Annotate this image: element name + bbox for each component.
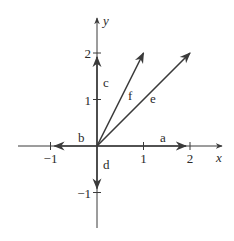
y-tick-label: −1 bbox=[77, 186, 91, 201]
y-tick-label: 1 bbox=[85, 93, 92, 108]
vector-label-a: a bbox=[160, 130, 166, 145]
labels: xy−112−112abcdef bbox=[44, 13, 222, 201]
y-axis-label: y bbox=[101, 13, 109, 28]
vector-diagram: xy−112−112abcdef bbox=[0, 0, 234, 241]
x-axis-label: x bbox=[215, 150, 222, 165]
y-tick-label: 2 bbox=[85, 46, 92, 61]
vector-e bbox=[97, 53, 190, 146]
vector-label-b: b bbox=[78, 130, 85, 145]
x-tick-label: 1 bbox=[140, 151, 147, 166]
vectors bbox=[55, 53, 191, 189]
vector-label-c: c bbox=[103, 75, 109, 90]
x-tick-label: −1 bbox=[44, 151, 58, 166]
vector-label-f: f bbox=[128, 88, 133, 103]
vector-label-d: d bbox=[103, 157, 110, 172]
vector-label-e: e bbox=[150, 91, 156, 106]
vector-f bbox=[97, 53, 144, 146]
x-tick-label: 2 bbox=[187, 151, 194, 166]
